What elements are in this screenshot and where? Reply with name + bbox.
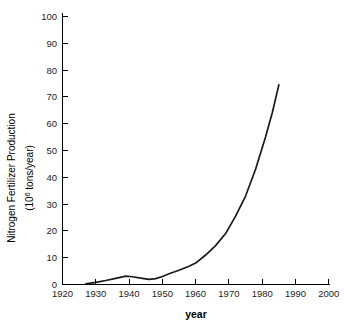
y-axis-units-label: (106 tons/year) <box>24 145 35 211</box>
y-units-suffix: tons/year) <box>24 145 35 192</box>
y-tick-label: 80 <box>46 65 57 76</box>
y-axis-label: Nitrogen Fertilizer Production <box>6 113 17 243</box>
nitrogen-fertilizer-production-line-chart: 0 10 20 30 40 50 60 70 80 90 100 1920 19… <box>0 0 344 325</box>
x-tick-label: 1980 <box>252 288 273 299</box>
x-tick-label: 1940 <box>119 288 140 299</box>
x-tick-label: 1930 <box>85 288 106 299</box>
y-tick-label: 20 <box>46 225 57 236</box>
x-tick-label: 1990 <box>285 288 306 299</box>
x-axis-tick-labels: 1920 1930 1940 1950 1960 1970 1980 1990 … <box>52 288 339 299</box>
chart-container: 0 10 20 30 40 50 60 70 80 90 100 1920 19… <box>0 0 344 325</box>
x-axis-label: year <box>185 308 207 320</box>
x-tick-label: 1950 <box>152 288 173 299</box>
y-tick-label: 40 <box>46 172 57 183</box>
y-tick-label: 70 <box>46 91 57 102</box>
y-tick-label: 30 <box>46 199 57 210</box>
y-tick-label: 50 <box>46 145 57 156</box>
y-tick-label: 60 <box>46 118 57 129</box>
y-tick-label: 10 <box>46 252 57 263</box>
y-units-prefix: (10 <box>24 196 35 211</box>
y-tick-label: 90 <box>46 38 57 49</box>
y-tick-label: 100 <box>41 11 57 22</box>
x-tick-label: 2000 <box>318 288 339 299</box>
x-tick-label: 1970 <box>218 288 239 299</box>
x-tick-label: 1960 <box>185 288 206 299</box>
x-tick-label: 1920 <box>52 288 73 299</box>
